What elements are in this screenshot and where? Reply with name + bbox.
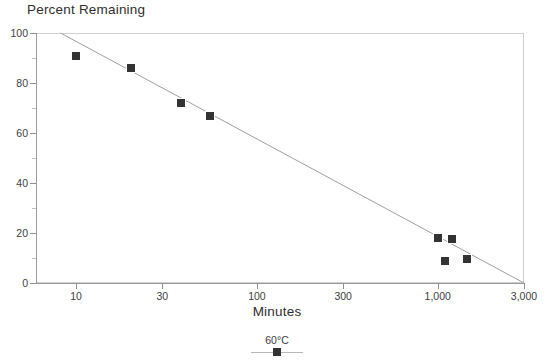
data-point-marker: [440, 256, 450, 266]
y-tick-label: 100: [0, 27, 28, 39]
legend-label: 60°C: [251, 334, 303, 346]
x-tick-mark: [438, 283, 439, 289]
y-tick-minor-mark: [32, 158, 36, 159]
x-axis-spine: [36, 283, 525, 284]
y-tick-mark: [30, 33, 36, 34]
data-point-marker: [126, 63, 136, 73]
y-tick-label: 0: [0, 277, 28, 289]
x-axis-title: Minutes: [0, 304, 554, 319]
data-point-marker: [71, 51, 81, 61]
y-tick-mark: [30, 133, 36, 134]
data-point-marker: [433, 233, 443, 243]
plot-frame: [36, 33, 524, 283]
y-tick-minor-mark: [32, 108, 36, 109]
data-point-marker: [447, 234, 457, 244]
y-tick-minor-mark: [32, 208, 36, 209]
chart-legend: 60°C: [0, 330, 554, 358]
legend-square-marker-icon: [273, 348, 281, 356]
chart-figure: Percent Remaining 020406080100 103010030…: [0, 0, 554, 362]
data-point-marker: [176, 98, 186, 108]
x-tick-mark: [257, 283, 258, 289]
y-tick-label: 60: [0, 127, 28, 139]
data-point-marker: [462, 254, 472, 264]
x-tick-mark: [162, 283, 163, 289]
y-tick-minor-mark: [32, 258, 36, 259]
x-tick-label: 30: [157, 290, 169, 302]
x-tick-label: 3,000: [511, 290, 537, 302]
x-tick-mark: [343, 283, 344, 289]
y-tick-label: 20: [0, 227, 28, 239]
y-tick-mark: [30, 183, 36, 184]
y-axis-title: Percent Remaining: [27, 2, 145, 17]
x-tick-label: 100: [248, 290, 266, 302]
y-tick-mark: [30, 283, 36, 284]
x-tick-label: 10: [70, 290, 82, 302]
y-tick-mark: [30, 83, 36, 84]
data-point-marker: [205, 111, 215, 121]
legend-entry: 60°C: [251, 334, 303, 358]
legend-key: [251, 347, 303, 358]
y-tick-mark: [30, 233, 36, 234]
x-tick-mark: [76, 283, 77, 289]
x-tick-label: 1,000: [425, 290, 451, 302]
y-tick-minor-mark: [32, 58, 36, 59]
x-tick-mark: [524, 283, 525, 289]
y-tick-label: 40: [0, 177, 28, 189]
y-axis-spine: [36, 33, 37, 284]
y-tick-label: 80: [0, 77, 28, 89]
x-tick-label: 300: [334, 290, 352, 302]
